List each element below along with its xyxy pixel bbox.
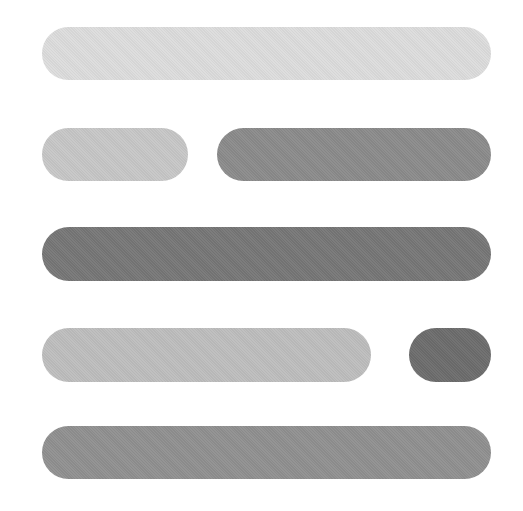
line-1-bar (42, 27, 491, 80)
text-lines-placeholder-icon (0, 0, 523, 511)
line-2-long-bar (217, 128, 491, 181)
line-4-dot-bar (409, 328, 491, 382)
line-4-long-bar (42, 328, 371, 382)
line-5-bar (42, 426, 491, 479)
line-2-short-bar (42, 128, 188, 181)
line-3-bar (42, 227, 491, 281)
